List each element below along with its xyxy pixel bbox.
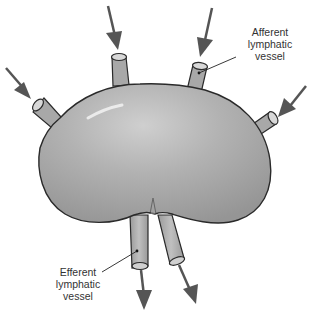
lymph-node-body <box>39 84 271 223</box>
efferent-vessel-right <box>158 215 186 267</box>
efferent-vessel-left <box>130 215 148 270</box>
afferent-vessel-top-left <box>112 54 130 87</box>
lymph-node-diagram: Afferent lymphatic vessel Efferent lymph… <box>0 0 314 313</box>
efferent-vessel-label: Efferent lymphatic vessel <box>48 266 108 302</box>
afferent-vessel-label: Afferent lymphatic vessel <box>238 26 302 62</box>
